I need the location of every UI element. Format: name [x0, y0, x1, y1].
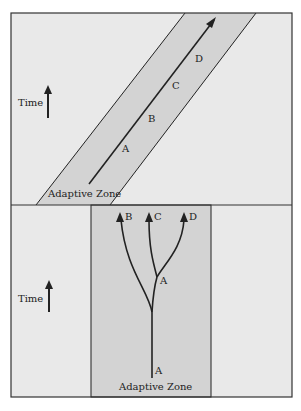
tip-label-b: B — [125, 211, 132, 222]
adaptive-zone-column — [91, 205, 211, 397]
lineage-label-d: D — [195, 53, 203, 64]
evolution-diagram: A B C D Adaptive Zone Time B C D A A Ada… — [0, 0, 301, 411]
tip-label-d: D — [189, 211, 197, 222]
lineage-label-b: B — [148, 113, 155, 124]
lineage-label-c: C — [172, 80, 180, 91]
time-label: Time — [18, 293, 43, 304]
time-label: Time — [18, 97, 43, 108]
lineage-label-a: A — [121, 143, 130, 154]
branch-point-label: A — [159, 275, 168, 286]
ancestor-label: A — [154, 365, 163, 376]
adaptive-zone-label: Adaptive Zone — [118, 381, 192, 392]
tip-label-c: C — [154, 211, 162, 222]
top-panel: A B C D Adaptive Zone Time — [11, 13, 292, 205]
adaptive-zone-label: Adaptive Zone — [47, 188, 121, 199]
bottom-panel: B C D A A Adaptive Zone Time — [11, 205, 292, 397]
